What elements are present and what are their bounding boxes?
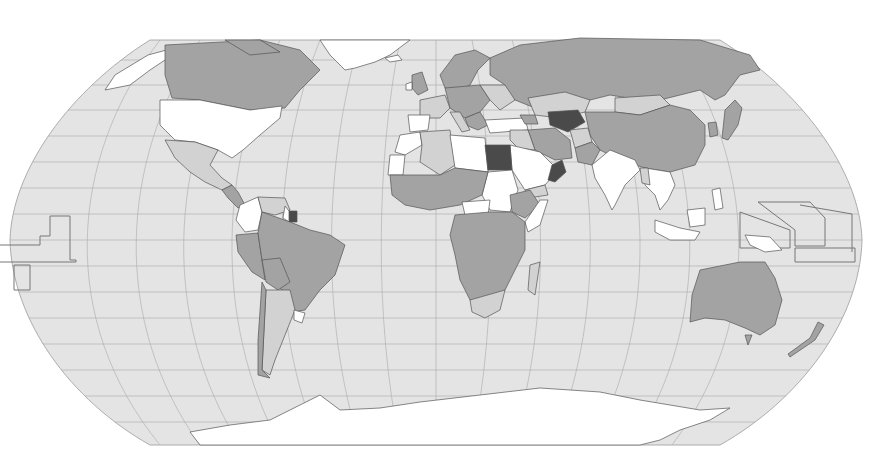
region-libya[interactable] — [450, 135, 488, 172]
region-iberia[interactable] — [408, 115, 430, 132]
region-borneo[interactable] — [687, 208, 705, 227]
region-egypt[interactable] — [485, 145, 512, 170]
region-western-sahara[interactable] — [388, 155, 405, 175]
region-korea[interactable] — [708, 122, 718, 137]
region-suriname[interactable] — [289, 211, 297, 222]
world-map — [0, 0, 875, 476]
